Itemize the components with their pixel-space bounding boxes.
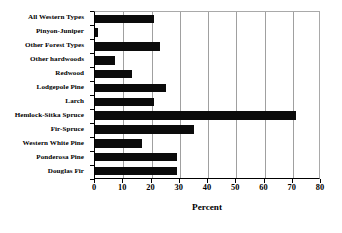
bar [95, 139, 142, 148]
category-label: Other hardwoods [0, 56, 88, 63]
axis-tick-label: 70 [288, 184, 296, 192]
axis-tick-label: 60 [259, 184, 267, 192]
bar-row [95, 26, 319, 40]
category-axis-labels: All Western Types Pinyon-Juniper Other F… [0, 11, 88, 179]
bar-row [95, 81, 319, 95]
axis-tick-label: 10 [118, 184, 126, 192]
category-label: Western White Pine [0, 140, 88, 147]
bar-row [95, 136, 319, 150]
bar-row [95, 67, 319, 81]
axis-tick-label: 20 [146, 184, 154, 192]
bar-series [95, 12, 319, 178]
category-label: Pinyon-Juniper [0, 28, 88, 35]
bar [95, 125, 194, 134]
category-label: Redwood [0, 70, 88, 77]
bar [95, 84, 166, 93]
value-axis-labels: 01020304050607080 [94, 184, 320, 196]
bar-row [95, 123, 319, 137]
x-axis-title: Percent [94, 203, 320, 212]
bar-row [95, 95, 319, 109]
category-label: All Western Types [0, 14, 88, 21]
category-label: Lodgepole Pine [0, 84, 88, 91]
axis-tick-label: 50 [231, 184, 239, 192]
axis-tick-label: 0 [92, 184, 96, 192]
bar [95, 70, 132, 79]
axis-tick-label: 40 [203, 184, 211, 192]
bar-row [95, 40, 319, 54]
bar [95, 167, 177, 176]
bar-row [95, 12, 319, 26]
category-label: Ponderosa Pine [0, 154, 88, 161]
bar-row [95, 53, 319, 67]
category-label: Larch [0, 98, 88, 105]
bar [95, 153, 177, 162]
plot-area [94, 11, 320, 179]
bar [95, 98, 154, 107]
bar [95, 28, 98, 37]
category-label: Hemlock-Sitka Spruce [0, 112, 88, 119]
bar-row [95, 109, 319, 123]
axis-tick-label: 30 [175, 184, 183, 192]
bar [95, 56, 115, 65]
bar [95, 15, 154, 24]
axis-tick-label: 80 [316, 184, 324, 192]
bar-row [95, 164, 319, 178]
bar-chart: All Western Types Pinyon-Juniper Other F… [0, 0, 342, 233]
category-label: Douglas Fir [0, 168, 88, 175]
bar [95, 111, 296, 120]
bar-row [95, 150, 319, 164]
category-label: Fir-Spruce [0, 126, 88, 133]
bar [95, 42, 160, 51]
category-label: Other Forest Types [0, 42, 88, 49]
